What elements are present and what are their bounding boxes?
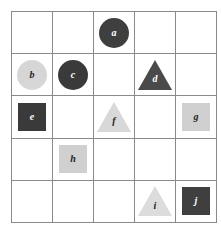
grid-cell-r5c2[interactable] <box>53 180 94 222</box>
shape-label: j <box>195 196 198 206</box>
shape-label: e <box>30 112 34 122</box>
grid-cell-r3c1[interactable]: e <box>12 96 53 138</box>
grid-cell-r5c4[interactable]: i <box>135 180 176 222</box>
grid-row: h <box>12 138 217 180</box>
shape-grid-table: abcdefghij <box>11 11 217 223</box>
grid-row: ij <box>12 180 217 222</box>
cell-content: g <box>176 96 216 137</box>
cell-content: b <box>12 54 52 95</box>
cell-content <box>94 181 134 222</box>
grid-cell-r3c2[interactable] <box>53 96 94 138</box>
cell-content <box>176 54 216 95</box>
cell-content <box>53 12 93 53</box>
shape-label: g <box>194 112 199 122</box>
triangle-shape-f[interactable]: f <box>97 102 131 132</box>
grid-body: abcdefghij <box>12 12 217 223</box>
grid-row: efg <box>12 96 217 138</box>
shape-label: f <box>112 116 115 126</box>
grid-cell-r3c4[interactable] <box>135 96 176 138</box>
cell-content: c <box>53 54 93 95</box>
square-shape-j[interactable]: j <box>182 187 210 215</box>
grid-cell-r1c5[interactable] <box>176 12 217 54</box>
shape-label: h <box>70 154 76 164</box>
empty-cell <box>53 12 93 53</box>
cell-content <box>53 96 93 137</box>
empty-cell <box>94 54 134 95</box>
circle-shape-c[interactable]: c <box>58 60 88 90</box>
shape-label: c <box>71 70 75 80</box>
cell-content: i <box>135 181 175 222</box>
empty-cell <box>94 181 134 222</box>
empty-cell <box>94 139 134 180</box>
shape-label: d <box>153 74 158 84</box>
grid-cell-r2c4[interactable]: d <box>135 54 176 96</box>
cell-content <box>94 139 134 180</box>
grid-cell-r2c1[interactable]: b <box>12 54 53 96</box>
grid-cell-r4c4[interactable] <box>135 138 176 180</box>
cell-content <box>12 139 52 180</box>
grid-cell-r5c3[interactable] <box>94 180 135 222</box>
grid-row: a <box>12 12 217 54</box>
grid-row: bcd <box>12 54 217 96</box>
grid-cell-r5c5[interactable]: j <box>176 180 217 222</box>
grid-cell-r1c1[interactable] <box>12 12 53 54</box>
shape-label: b <box>30 70 35 80</box>
cell-content: j <box>176 181 216 222</box>
shape-grid-figure: abcdefghij <box>0 0 221 230</box>
cell-content <box>12 181 52 222</box>
grid-cell-r4c1[interactable] <box>12 138 53 180</box>
grid-cell-r1c4[interactable] <box>135 12 176 54</box>
grid-cell-r2c5[interactable] <box>176 54 217 96</box>
empty-cell <box>53 181 93 222</box>
empty-cell <box>12 139 52 180</box>
grid-cell-r4c2[interactable]: h <box>53 138 94 180</box>
empty-cell <box>12 12 52 53</box>
cell-content <box>135 12 175 53</box>
square-shape-e[interactable]: e <box>18 103 46 131</box>
circle-shape-b[interactable]: b <box>17 60 47 90</box>
shape-label: a <box>112 28 117 38</box>
cell-content <box>53 181 93 222</box>
cell-content <box>94 54 134 95</box>
grid-cell-r3c3[interactable]: f <box>94 96 135 138</box>
cell-content <box>176 139 216 180</box>
cell-content: a <box>94 12 134 53</box>
grid-cell-r2c3[interactable] <box>94 54 135 96</box>
cell-content: d <box>135 54 175 95</box>
triangle-shape-d[interactable]: d <box>138 60 172 90</box>
square-shape-h[interactable]: h <box>59 145 87 173</box>
cell-content: f <box>94 96 134 137</box>
grid-cell-r4c5[interactable] <box>176 138 217 180</box>
empty-cell <box>135 96 175 137</box>
grid-cell-r3c5[interactable]: g <box>176 96 217 138</box>
cell-content <box>135 139 175 180</box>
empty-cell <box>53 96 93 137</box>
cell-content <box>135 96 175 137</box>
grid-cell-r2c2[interactable]: c <box>53 54 94 96</box>
empty-cell <box>176 139 216 180</box>
cell-content <box>12 12 52 53</box>
cell-content: h <box>53 139 93 180</box>
empty-cell <box>176 54 216 95</box>
cell-content: e <box>12 96 52 137</box>
empty-cell <box>176 12 216 53</box>
grid-cell-r5c1[interactable] <box>12 180 53 222</box>
shape-label: i <box>154 201 157 211</box>
grid-cell-r1c3[interactable]: a <box>94 12 135 54</box>
cell-content <box>176 12 216 53</box>
grid-cell-r1c2[interactable] <box>53 12 94 54</box>
grid-cell-r4c3[interactable] <box>94 138 135 180</box>
triangle-shape-i[interactable]: i <box>138 186 172 216</box>
empty-cell <box>12 181 52 222</box>
square-shape-g[interactable]: g <box>182 103 210 131</box>
circle-shape-a[interactable]: a <box>99 18 129 48</box>
empty-cell <box>135 139 175 180</box>
empty-cell <box>135 12 175 53</box>
